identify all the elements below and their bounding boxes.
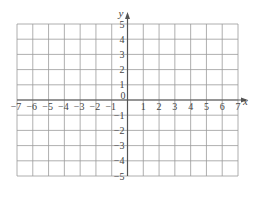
y-tick-label: 1	[120, 79, 125, 90]
x-tick-label: 3	[172, 101, 177, 112]
x-tick-label: 2	[157, 101, 162, 112]
x-tick-label: 6	[220, 101, 225, 112]
x-axis-label: x	[242, 95, 248, 107]
axes	[17, 12, 248, 176]
x-tick-label: 5	[204, 101, 209, 112]
y-tick-label: 5	[120, 19, 125, 30]
coordinate-grid: −7−6−5−4−3−2−11234567 −5−4−3−2−112345 0 …	[0, 0, 262, 198]
x-tick-label: −5	[42, 101, 53, 112]
y-tick-label: −1	[114, 110, 125, 121]
y-tick-label: 2	[120, 64, 125, 75]
y-tick-label: −5	[114, 171, 125, 182]
y-tick-label: −3	[114, 140, 125, 151]
x-tick-labels: −7−6−5−4−3−2−11234567	[11, 101, 241, 112]
x-tick-label: 1	[141, 101, 146, 112]
y-axis-arrow-icon	[125, 12, 130, 19]
x-tick-label: −2	[90, 101, 101, 112]
y-axis-label: y	[118, 7, 124, 19]
y-tick-label: −4	[114, 155, 125, 166]
x-tick-label: −4	[58, 101, 69, 112]
y-tick-label: −2	[114, 125, 125, 136]
x-tick-label: 4	[188, 101, 193, 112]
x-tick-label: −6	[26, 101, 37, 112]
origin-label: 0	[121, 90, 126, 101]
x-tick-label: −3	[74, 101, 85, 112]
y-tick-label: 4	[120, 34, 125, 45]
x-tick-label: 7	[236, 101, 241, 112]
y-tick-label: 3	[120, 49, 125, 60]
x-tick-label: −7	[11, 101, 22, 112]
